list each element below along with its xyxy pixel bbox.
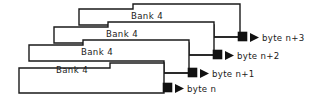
arrow-head-top — [250, 33, 259, 42]
byte-label-second: byte n+2 — [237, 51, 279, 61]
bank-outline-bottom — [19, 63, 164, 93]
bank-label-second: Bank 4 — [106, 29, 138, 39]
arrow-head-bottom — [175, 84, 184, 93]
byte-marker-second — [213, 50, 222, 59]
byte-marker-bottom — [163, 83, 172, 92]
bank-label-third: Bank 4 — [81, 47, 113, 57]
bank-label-bottom: Bank 4 — [56, 65, 88, 75]
bank-label-top: Bank 4 — [131, 11, 163, 21]
arrow-head-third — [200, 69, 209, 78]
byte-label-third: byte n+1 — [212, 69, 254, 79]
byte-label-top: byte n+3 — [262, 33, 304, 43]
diagram-canvas: Bank 4 byte n+3 Bank 4 byte n+2 Bank 4 b… — [0, 0, 323, 104]
arrow-head-second — [225, 51, 234, 60]
byte-label-bottom: byte n — [187, 84, 216, 94]
byte-marker-top — [238, 32, 247, 41]
bank-stack-diagram: Bank 4 byte n+3 Bank 4 byte n+2 Bank 4 b… — [0, 0, 323, 104]
byte-marker-third — [188, 68, 197, 77]
